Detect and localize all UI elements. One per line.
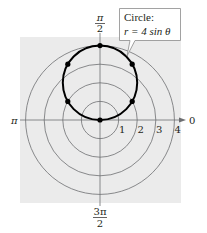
angle-label-pi-2-denominator: 2 <box>97 23 103 34</box>
angle-label-3pi-2-denominator: 2 <box>97 218 103 229</box>
callout-line-1: Circle: <box>124 11 154 23</box>
point-pi-3 <box>130 62 135 67</box>
axis-arrow-icon <box>179 118 186 123</box>
point-2pi-3 <box>65 62 70 67</box>
angle-label-pi-2-numerator: π <box>96 12 104 23</box>
point-5pi-6 <box>65 99 70 104</box>
point-origin <box>97 117 102 122</box>
polar-graph: 1 2 3 4 π 2 π 0 3π 2 Circle: r = 4 sin θ <box>0 0 207 233</box>
angle-label-3pi-2-numerator: 3π <box>94 206 107 217</box>
radial-tick-3: 3 <box>156 124 162 135</box>
angle-label-pi: π <box>10 115 18 126</box>
point-pi-6 <box>130 99 135 104</box>
angle-label-0: 0 <box>189 115 195 126</box>
callout-line-2: r = 4 sin θ <box>124 25 171 37</box>
point-pi-2 <box>97 43 102 48</box>
radial-tick-1: 1 <box>119 124 125 135</box>
radial-tick-2: 2 <box>138 124 144 135</box>
radial-tick-4: 4 <box>175 124 181 135</box>
